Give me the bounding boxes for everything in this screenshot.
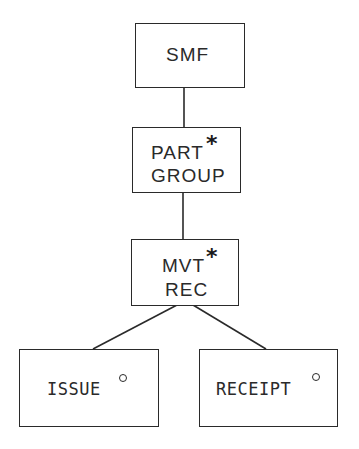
iteration-asterisk-icon: *	[206, 133, 218, 155]
node-receipt-label: RECEIPT	[216, 381, 291, 398]
iteration-asterisk-icon: *	[206, 246, 218, 268]
selection-circle-icon	[312, 373, 320, 381]
edge-mvtrec-issue	[93, 305, 177, 349]
structure-diagram: SMF PART * GROUP MVT * REC ISSUE RECEIPT	[0, 0, 359, 449]
selection-circle-icon	[119, 374, 127, 382]
edge-mvtrec-receipt	[193, 305, 266, 349]
node-part-group-line1: PART	[151, 143, 204, 162]
node-issue-label: ISSUE	[47, 381, 101, 398]
node-smf-label: SMF	[166, 45, 209, 64]
node-mvt-rec-line1: MVT	[162, 256, 205, 275]
node-part-group-line2: GROUP	[151, 166, 226, 185]
node-mvt-rec-line2: REC	[165, 280, 208, 299]
